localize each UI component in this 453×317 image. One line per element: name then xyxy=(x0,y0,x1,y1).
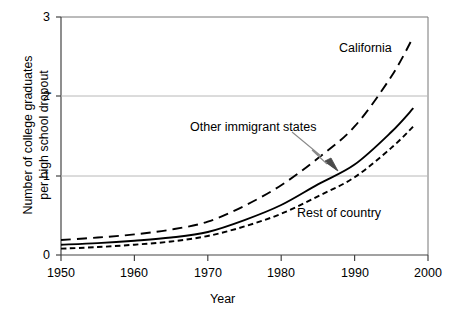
y-axis-title: Number of college graduates per high sch… xyxy=(20,35,54,235)
annotation-arrow-other-immigrant-states xyxy=(292,132,338,171)
y-axis-ticks xyxy=(56,17,61,255)
y-tick-label-0: 0 xyxy=(30,248,50,262)
x-tick-label-1960: 1960 xyxy=(111,266,157,280)
series-label-california: California xyxy=(339,41,392,55)
x-tick-label-2000: 2000 xyxy=(405,266,451,280)
x-tick-label-1990: 1990 xyxy=(332,266,378,280)
chart-figure: 3 2 1 0 1950 1960 1970 1980 1990 2000 Ye… xyxy=(0,0,453,317)
x-axis-ticks xyxy=(61,255,428,261)
series-line-rest-of-country xyxy=(61,126,413,248)
y-axis-title-line-2: per high school dropout xyxy=(36,35,52,235)
x-tick-label-1950: 1950 xyxy=(38,266,84,280)
x-tick-label-1980: 1980 xyxy=(258,266,304,280)
y-axis-title-line-1: Number of college graduates xyxy=(20,35,36,235)
x-axis-title: Year xyxy=(210,292,235,306)
series-label-other-immigrant-states: Other immigrant states xyxy=(190,120,316,134)
y-tick-label-3: 3 xyxy=(30,10,50,24)
x-tick-label-1970: 1970 xyxy=(185,266,231,280)
series-label-rest-of-country: Rest of country xyxy=(297,206,381,220)
